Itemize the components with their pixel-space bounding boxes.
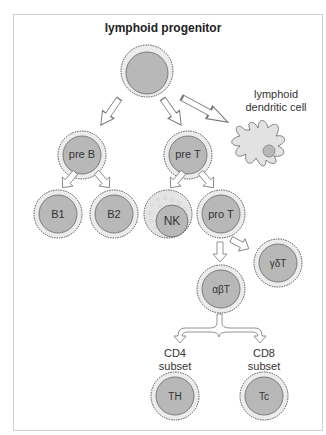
lymphoid-progenitor-cell	[121, 45, 173, 97]
label-b2: B2	[94, 208, 134, 221]
label-th: TH	[155, 390, 195, 403]
cd8-line-2: subset	[244, 360, 284, 373]
label-gd-t: γδT	[258, 257, 298, 270]
dendritic-line-2: dendritic cell	[236, 101, 316, 114]
label-dendritic-cell: lymphoid dendritic cell	[236, 88, 316, 114]
label-cd8-subset: CD8 subset	[244, 347, 284, 373]
arrow-pro-t-to-ab-t	[213, 242, 227, 262]
label-pre-b: pre B	[62, 148, 102, 161]
label-cd4-subset: CD4 subset	[155, 347, 195, 373]
dendritic-cell	[232, 121, 285, 166]
dendritic-line-1: lymphoid	[236, 88, 316, 101]
label-b1: B1	[38, 208, 78, 221]
arrow-to-pre-b	[95, 95, 125, 129]
label-tc: Tc	[244, 390, 284, 403]
cd4-line-2: subset	[155, 360, 195, 373]
split-arrow-cd4-cd8	[174, 314, 266, 343]
cd8-line-1: CD8	[244, 347, 284, 360]
arrow-pro-t-to-gd-t	[228, 233, 252, 255]
arrow-to-dendritic	[179, 92, 231, 129]
label-nk: NK	[152, 215, 192, 228]
cd4-line-1: CD4	[155, 347, 195, 360]
label-pro-t: pro T	[201, 208, 241, 221]
label-pre-t: pre T	[168, 148, 208, 161]
label-ab-t: αβT	[201, 283, 241, 296]
